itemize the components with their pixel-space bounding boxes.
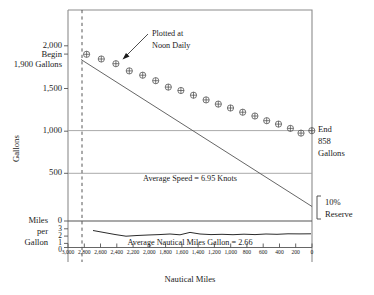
linear-consumption-line: [81, 60, 312, 207]
reserve-percent: 10%: [325, 198, 341, 207]
average-nmg-note: Average Nautical Miles Gallon = 2.66: [110, 239, 270, 248]
y-axis-title: Gallons: [12, 135, 21, 162]
mpg-axis-ticks: [64, 229, 68, 248]
end-value: 858: [318, 137, 331, 146]
noon-daily-markers: [84, 51, 315, 136]
end-units: Gallons: [318, 149, 345, 158]
average-speed-note: Average Speed = 6.95 Knots: [120, 175, 260, 184]
begin-gallons-label: 1,900 Gallons: [2, 60, 62, 69]
x-axis-title: Nautical Miles: [150, 275, 230, 284]
begin-label: Begin: [18, 50, 62, 59]
x-tick-200: 200: [286, 250, 306, 256]
fuel-consumption-chart: 2,000 Begin 1,900 Gallons 1,500 1,000 50…: [0, 0, 374, 295]
y-tick-1000: 1,000: [18, 126, 62, 135]
x-tick-0: 0: [304, 250, 320, 256]
mpg-label-line1: Miles: [8, 216, 48, 225]
callout-line1: Plotted at: [152, 30, 183, 39]
y-axis-ticks: [64, 46, 68, 221]
end-label: End: [318, 125, 332, 134]
nautical-miles-per-gallon-curve: [93, 231, 311, 237]
callout-arrow-icon: [123, 34, 149, 60]
reserve-bracket: [317, 196, 321, 219]
callout-line2: Noon Daily: [152, 42, 190, 51]
y-tick-1500: 1,500: [18, 84, 62, 93]
reserve-label: Reserve: [325, 210, 353, 219]
y-tick-500: 500: [18, 168, 62, 177]
